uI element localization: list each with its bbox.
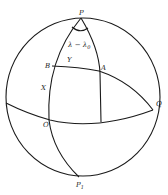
label-b: B — [44, 62, 50, 70]
label-p1-sub: 1 — [81, 184, 84, 190]
label-a: A — [100, 64, 106, 72]
label-y: Y — [67, 56, 73, 64]
arc-baq — [52, 66, 153, 110]
label-angle: λ − λ0 — [67, 41, 91, 50]
equator-arc — [6, 103, 153, 124]
label-angle-main: λ − λ — [67, 41, 87, 49]
angle-arc — [72, 27, 88, 31]
label-p: P — [78, 9, 84, 17]
label-p1: P1 — [75, 181, 84, 190]
label-q: Q — [156, 100, 162, 108]
label-o: O — [43, 121, 49, 129]
label-x: X — [40, 84, 47, 92]
label-angle-sub: 0 — [87, 44, 91, 50]
celestial-sphere-diagram: P λ − λ0 B Y A X O Q P1 — [0, 0, 168, 195]
